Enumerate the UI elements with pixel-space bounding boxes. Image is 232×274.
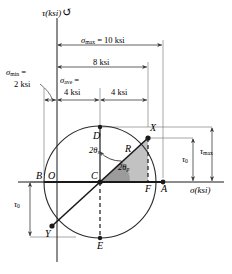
label-tau-zero-right: τ0 — [182, 155, 188, 165]
eight-ksi-text: 8 ksi — [93, 57, 109, 67]
sigma-axis-label-text: σ(ksi) — [190, 185, 210, 195]
sigma-min-value: 2 ksi — [14, 79, 30, 89]
angle-2theta-p-subscript: p — [126, 166, 129, 172]
point-label-y: Y — [45, 229, 51, 239]
angle-label-2theta-p: 2θp — [118, 163, 129, 173]
dim-label-8ksi: 8 ksi — [93, 58, 109, 67]
point-label-x: X — [150, 123, 156, 133]
point-label-e: E — [97, 241, 103, 251]
sigma-max-value: = 10 ksi — [97, 35, 124, 45]
label-tau-zero-left: τ0 — [14, 200, 20, 210]
point-label-b-text: B — [36, 170, 42, 181]
dim-label-sigma-ave: σave= — [60, 76, 79, 86]
point-label-o-text: O — [48, 170, 55, 181]
sigma-ave-subscript: ave — [64, 79, 72, 85]
dim-label-4ksi-left: 4 ksi — [64, 88, 80, 97]
mohrs-circle-figure: τ(ksi)↺ σ(ksi) σmax= 10 ksi 8 ksi σmin= … — [0, 0, 232, 274]
point-label-a-text: A — [161, 183, 167, 194]
tau-max-subscript: max — [203, 150, 213, 156]
arc-2theta-s — [100, 152, 122, 161]
dim-label-sigma-max: σmax= 10 ksi — [81, 36, 125, 46]
radius-label-r-text: R — [125, 143, 131, 154]
point-label-o: O — [48, 171, 55, 181]
point-label-e-text: E — [97, 240, 103, 251]
point-label-x-text: X — [150, 122, 156, 133]
sigma-axis-label: σ(ksi) — [190, 186, 210, 195]
tau-axis-label: τ(ksi)↺ — [42, 6, 72, 18]
label-tau-max: τmax — [200, 147, 213, 157]
sigma-min-equals: = — [21, 67, 26, 77]
point-dot-x — [145, 135, 150, 140]
point-dot-d — [98, 125, 102, 129]
point-label-c-text: C — [91, 170, 98, 181]
rotation-arrow-icon: ↺ — [62, 5, 72, 19]
four-ksi-left-text: 4 ksi — [64, 87, 80, 97]
point-label-f-text: F — [145, 183, 151, 194]
point-label-d-text: D — [93, 130, 100, 141]
radius-label-r: R — [125, 144, 131, 154]
tau-zero-right-subscript: 0 — [185, 158, 188, 164]
point-label-f: F — [145, 184, 151, 194]
tau-zero-left-subscript: 0 — [17, 203, 20, 209]
dim-label-sigma-min-value: 2 ksi — [14, 80, 30, 89]
four-ksi-right-text: 4 ksi — [111, 87, 127, 97]
sigma-max-subscript: max — [85, 39, 95, 45]
tau-axis-label-text: τ(ksi) — [42, 8, 61, 18]
point-label-c: C — [91, 171, 98, 181]
dim-label-sigma-min: σmin= — [6, 68, 26, 78]
point-label-y-text: Y — [45, 228, 51, 239]
sigma-min-subscript: min — [10, 71, 19, 77]
angle-label-2theta-s: 2θs — [89, 146, 100, 156]
sigma-ave-equals: = — [74, 75, 79, 85]
dim-label-4ksi-right: 4 ksi — [111, 88, 127, 97]
point-label-b: B — [36, 171, 42, 181]
point-label-a: A — [161, 184, 167, 194]
angle-2theta-s-subscript: s — [97, 149, 99, 155]
leader-sigma-min — [40, 84, 52, 99]
point-dot-c — [97, 179, 102, 184]
point-label-d: D — [93, 131, 100, 141]
